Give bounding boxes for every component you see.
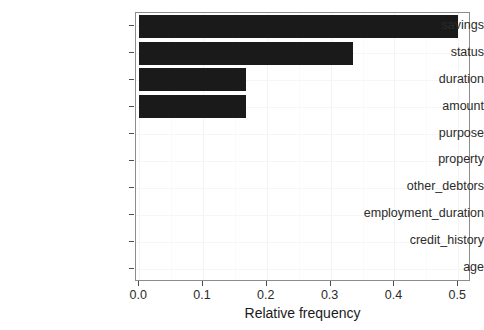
x-tick-mark: [457, 281, 458, 286]
bar-status: [139, 42, 353, 65]
y-tick-mark: [129, 133, 134, 134]
y-tick-label-property: property: [362, 153, 484, 166]
y-tick-label-duration: duration: [362, 73, 484, 86]
x-axis-title: Relative frequency: [135, 304, 470, 322]
x-tick-label: 0.0: [118, 288, 158, 302]
bar-duration: [139, 68, 246, 91]
y-tick-label-employment_duration: employment_duration: [362, 207, 484, 220]
x-tick-mark: [202, 281, 203, 286]
x-tick-mark: [330, 281, 331, 286]
y-tick-label-age: age: [362, 261, 484, 274]
x-tick-label: 0.2: [246, 288, 286, 302]
y-tick-mark: [129, 25, 134, 26]
x-tick-label: 0.5: [437, 288, 477, 302]
y-tick-mark: [129, 160, 134, 161]
x-tick-label: 0.1: [182, 288, 222, 302]
y-tick-mark: [129, 52, 134, 53]
y-tick-label-purpose: purpose: [362, 127, 484, 140]
x-tick-label: 0.4: [373, 288, 413, 302]
x-tick-mark: [266, 281, 267, 286]
bar-amount: [139, 95, 246, 118]
y-tick-label-status: status: [362, 46, 484, 59]
x-tick-mark: [393, 281, 394, 286]
x-tick-label: 0.3: [310, 288, 350, 302]
y-tick-mark: [129, 268, 134, 269]
y-tick-label-other_debtors: other_debtors: [362, 180, 484, 193]
y-tick-mark: [129, 106, 134, 107]
y-tick-label-credit_history: credit_history: [362, 234, 484, 247]
y-tick-mark: [129, 241, 134, 242]
y-tick-label-amount: amount: [362, 100, 484, 113]
y-tick-mark: [129, 79, 134, 80]
y-tick-mark: [129, 187, 134, 188]
x-tick-mark: [138, 281, 139, 286]
y-tick-mark: [129, 214, 134, 215]
bar-chart: savingsstatusdurationamountpurposeproper…: [0, 0, 484, 330]
y-tick-label-savings: savings: [362, 19, 484, 32]
